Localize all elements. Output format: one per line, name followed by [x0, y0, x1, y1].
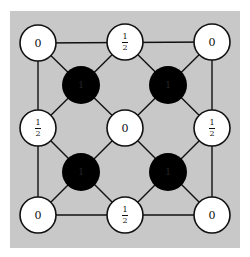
fraction-denominator: 2 [35, 130, 40, 138]
node-value: 0 [122, 122, 129, 135]
fraction-denominator: 2 [209, 130, 214, 138]
fraction-numerator: 1 [209, 119, 214, 127]
node-value: 1 [78, 167, 84, 177]
fraction-half: 1 2 [209, 119, 215, 138]
fraction-numerator: 1 [122, 33, 127, 41]
node-value: 1 [78, 80, 84, 90]
node-label-bottom-left: 0 [20, 197, 56, 233]
node-value: 1 [165, 167, 171, 177]
black-node-label-lower-right: 1 [148, 152, 188, 192]
black-node-label-upper-left: 1 [61, 65, 101, 105]
fraction-half: 1 2 [122, 33, 128, 52]
node-label-center: 0 [107, 110, 143, 146]
black-node-label-upper-right: 1 [148, 65, 188, 105]
node-value: 0 [35, 209, 42, 222]
fraction-numerator: 1 [35, 119, 40, 127]
fraction-denominator: 2 [122, 44, 127, 52]
node-label-top-left: 0 [20, 25, 56, 61]
node-label-bottom-middle: 1 2 [107, 197, 143, 233]
node-label-bottom-right: 0 [194, 197, 230, 233]
node-label-middle-right: 1 2 [194, 110, 230, 146]
fraction-denominator: 2 [122, 217, 127, 225]
node-label-top-right: 0 [194, 24, 230, 60]
node-value: 0 [35, 37, 42, 50]
node-value: 0 [209, 209, 216, 222]
node-value: 1 [165, 80, 171, 90]
fraction-half: 1 2 [35, 119, 41, 138]
black-node-label-lower-left: 1 [61, 152, 101, 192]
node-label-top-middle: 1 2 [107, 24, 143, 60]
node-value: 0 [209, 36, 216, 49]
fraction-numerator: 1 [122, 206, 127, 214]
fraction-half: 1 2 [122, 206, 128, 225]
node-label-middle-left: 1 2 [20, 110, 56, 146]
